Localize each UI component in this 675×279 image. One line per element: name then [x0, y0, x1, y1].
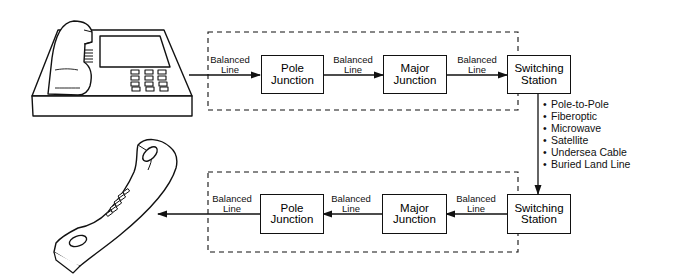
node-switching-station-top: Switching Station [507, 55, 571, 94]
connection-label: Balanced Line [328, 55, 378, 74]
desk-telephone-icon [32, 21, 192, 116]
list-item: Undersea Cable [543, 146, 630, 158]
node-label-line2: Junction [271, 75, 314, 87]
node-switching-station-bottom: Switching Station [507, 194, 571, 234]
label-line2: Line [452, 65, 502, 75]
label-line2: Line [207, 204, 257, 214]
node-label-line2: Junction [271, 214, 314, 226]
label-line2: Line [451, 204, 501, 214]
label-line2: Line [326, 204, 376, 214]
node-label-line2: Junction [394, 75, 437, 87]
list-item: Pole-to-Pole [543, 98, 630, 110]
node-pole-junction-bottom: Pole Junction [260, 194, 324, 234]
label-line2: Line [205, 65, 255, 75]
connection-label: Balanced Line [207, 194, 257, 213]
node-major-junction-bottom: Major Junction [382, 194, 447, 234]
label-line2: Line [328, 65, 378, 75]
list-item: Fiberoptic [543, 110, 630, 122]
connection-label: Balanced Line [205, 55, 255, 74]
connection-label: Balanced Line [451, 194, 501, 213]
node-major-junction-top: Major Junction [383, 55, 447, 94]
node-label-line1: Switching [514, 63, 563, 75]
node-label-line2: Junction [393, 214, 436, 226]
node-label-line2: Station [521, 214, 557, 226]
connection-label: Balanced Line [452, 55, 502, 74]
list-item: Microwave [543, 122, 630, 134]
node-label-line1: Major [401, 63, 430, 75]
list-item: Satellite [543, 134, 630, 146]
node-pole-junction-top: Pole Junction [261, 55, 324, 94]
node-label-line1: Pole [281, 63, 304, 75]
connection-label: Balanced Line [326, 194, 376, 213]
trunk-media-list: Pole-to-Pole Fiberoptic Microwave Satell… [543, 98, 630, 170]
handset-icon [54, 140, 177, 273]
list-item: Buried Land Line [543, 158, 630, 170]
node-label-line2: Station [521, 75, 557, 87]
